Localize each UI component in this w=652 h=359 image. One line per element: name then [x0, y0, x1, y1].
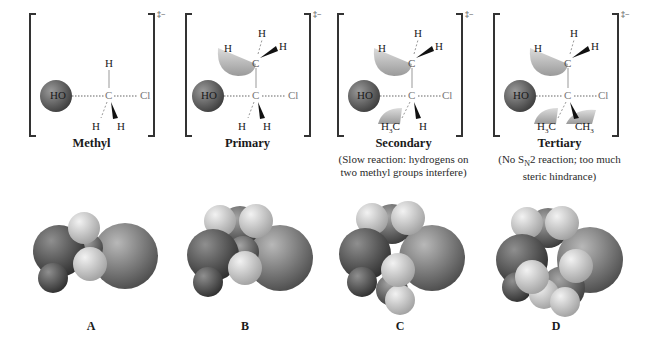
h-left-label: H — [92, 120, 100, 132]
h-top-label: H — [105, 57, 113, 69]
label-c: C — [380, 319, 420, 334]
carbon-label: C — [252, 89, 259, 101]
h-label: H — [224, 42, 232, 54]
panel-note: (No SN2 reaction; too much steric hindra… — [468, 153, 651, 183]
ho-label: HO — [201, 89, 217, 101]
note-line-1: (No SN2 reaction; too much — [468, 153, 651, 170]
carbon-label: C — [105, 89, 112, 101]
panel-tertiary: HO C C Cl H H H H3C CH3 ‡− Tertiary (No … — [478, 0, 641, 190]
charge-symbol: ‡− — [313, 10, 322, 19]
model-a — [33, 212, 158, 293]
cl-label: Cl — [288, 89, 298, 101]
model-d — [496, 206, 623, 317]
panel-secondary: HO C C Cl H H H H3C H ‡− Secondary (Slow… — [322, 0, 485, 190]
h-label: H — [263, 120, 271, 132]
note-line-2: steric hindrance) — [468, 170, 651, 183]
methyl-carbon-label: C — [252, 57, 259, 69]
cl-label: Cl — [598, 89, 608, 101]
panel-methyl: HO C Cl H H H ‡− Methyl — [10, 0, 173, 190]
h-label: H — [378, 42, 386, 54]
h-label: H — [279, 40, 287, 52]
model-b — [187, 204, 313, 297]
panel-title: Secondary — [322, 136, 485, 151]
model-c — [339, 201, 465, 315]
panel-title: Primary — [166, 136, 329, 151]
h-label: H — [591, 40, 599, 52]
h-right-label: H — [117, 120, 125, 132]
h-label: H — [435, 40, 443, 52]
space-filling-models — [0, 190, 652, 320]
charge-symbol: ‡− — [465, 10, 474, 19]
label-a: A — [71, 319, 111, 334]
panel-title: Tertiary — [478, 136, 641, 151]
cl-label: Cl — [140, 89, 150, 101]
wedge-bond — [111, 102, 118, 119]
methyl-transition-state-structure — [10, 0, 185, 140]
cl-label: Cl — [442, 89, 452, 101]
h3c-label: H3C — [537, 120, 556, 135]
ho-label: HO — [513, 89, 529, 101]
charge-symbol: ‡− — [621, 10, 630, 19]
ho-label: HO — [50, 89, 66, 101]
ho-label: HO — [357, 89, 373, 101]
ch3-label: CH3 — [575, 120, 594, 135]
right-bracket — [148, 14, 154, 136]
h-label: H — [414, 27, 422, 39]
primary-transition-state-structure — [166, 0, 341, 140]
label-d: D — [536, 319, 576, 334]
h-label: H — [238, 120, 246, 132]
methyl-carbon-label: C — [408, 57, 415, 69]
h-label: H — [419, 120, 427, 132]
h3c-label: H3C — [381, 120, 400, 135]
h-label: H — [258, 27, 266, 39]
panel-primary: HO C C Cl H H H H H ‡− Primary — [166, 0, 329, 190]
carbon-label: C — [564, 89, 571, 101]
h-label: H — [534, 42, 542, 54]
carbon-label: C — [408, 89, 415, 101]
left-bracket — [30, 14, 36, 136]
tertiary-transition-state-structure — [478, 0, 652, 140]
panel-title: Methyl — [10, 136, 173, 151]
secondary-transition-state-structure — [322, 0, 497, 140]
h-label: H — [570, 27, 578, 39]
charge-symbol: ‡− — [157, 10, 166, 19]
methyl-carbon-label: C — [564, 57, 571, 69]
label-b: B — [225, 319, 265, 334]
